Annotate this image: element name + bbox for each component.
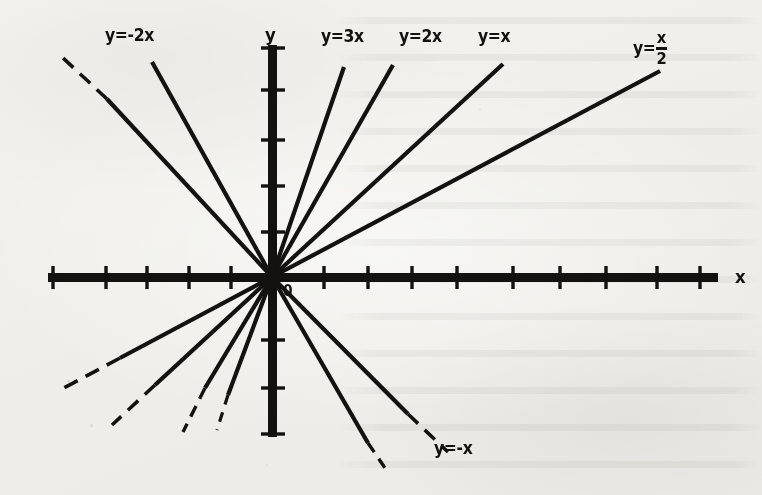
- coordinate-plane: [0, 0, 762, 495]
- fraction-lead: y=: [633, 40, 656, 57]
- label-y-axis: y: [265, 26, 275, 44]
- label-x-axis: x: [735, 268, 745, 286]
- axes: [48, 45, 718, 437]
- label-y-equals-negative-x: y=-x: [434, 440, 472, 457]
- label-y-equals-2x: y=2x: [399, 28, 442, 45]
- label-y-equals-negative-2x: y=-2x: [105, 27, 154, 44]
- label-y-equals-x: y=x: [478, 28, 510, 45]
- fraction-numerator: x: [656, 30, 667, 46]
- label-y-equals-x-over-2: y= x 2: [633, 30, 667, 67]
- line-y-equals-2x: [183, 65, 393, 432]
- fraction-x-over-2: x 2: [656, 30, 668, 67]
- line-y-equals-x: [112, 64, 503, 425]
- label-y-equals-3x: y=3x: [321, 28, 364, 45]
- label-origin: 0: [283, 284, 292, 299]
- fraction-denominator: 2: [656, 51, 668, 67]
